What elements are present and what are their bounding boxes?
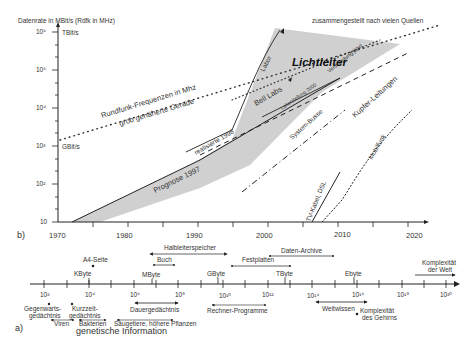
x-tick-2000: 2000 bbox=[256, 231, 273, 240]
scale-tick-1e4: 10⁴ bbox=[85, 291, 95, 298]
scale-a: 10² 10⁴ 10⁶ 10⁸ 10¹⁰ 10¹² 10¹⁴ 10¹⁶ 10¹⁸… bbox=[15, 244, 460, 336]
chart-b: 10 10² 10³ 10⁴ 10⁵ 10⁶ TBit/s GBit/s Dat… bbox=[17, 17, 440, 240]
gbit-label: GBit/s bbox=[62, 143, 80, 150]
y-tick-1e2: 10² bbox=[36, 180, 46, 187]
gegen-label-2: gedächtnis bbox=[29, 312, 61, 320]
tbyte-label: TByte bbox=[276, 270, 293, 278]
mbyte-label: MByte bbox=[142, 271, 161, 279]
a4-label: A4-Seite bbox=[83, 256, 108, 263]
ebyte-label: Ebyte bbox=[345, 270, 362, 278]
source-note: zusammengestellt nach vielen Quellen bbox=[312, 17, 424, 25]
scale-tick-1e12: 10¹² bbox=[262, 291, 274, 298]
mobilfunk-label: Mobilfunk bbox=[367, 132, 387, 160]
welt-label-2: der Welt bbox=[428, 266, 452, 273]
y-tick-1e6: 10⁶ bbox=[36, 28, 46, 35]
x-tick-2010: 2010 bbox=[334, 230, 351, 239]
a4-point bbox=[92, 265, 95, 268]
y-axis-label: Datenrate in MBit/s (Rdfk in MHz) bbox=[18, 17, 115, 25]
scale-tick-1e16: 10¹⁶ bbox=[352, 291, 364, 298]
scale-tick-1e8: 10⁸ bbox=[175, 291, 185, 298]
rechner-label: Rechner-Programme bbox=[207, 307, 268, 315]
x-tick-1970: 1970 bbox=[49, 231, 66, 240]
archive-label: Daten-Archive bbox=[281, 247, 323, 254]
tbit-label: TBit/s bbox=[62, 29, 79, 36]
genetisch-label: genetische Information bbox=[76, 326, 167, 336]
scale-tick-1e6: 10⁶ bbox=[130, 291, 140, 298]
panel-a-label: a) bbox=[15, 323, 23, 333]
y-tick-1e4: 10⁴ bbox=[36, 104, 46, 111]
y-tick-1e3: 10³ bbox=[36, 142, 46, 149]
panel-b-label: b) bbox=[17, 230, 25, 240]
kbyte-label: KByte bbox=[74, 270, 92, 278]
x-tick-1990: 1990 bbox=[186, 231, 203, 240]
kupfer-label: Kupfer-Leitungen bbox=[350, 74, 399, 119]
scale-tick-1e14: 10¹⁴ bbox=[307, 292, 319, 299]
scale-tick-1e2: 10² bbox=[40, 291, 50, 298]
mobilfunk-line bbox=[322, 110, 412, 222]
scale-tick-1e20: 10²⁰ bbox=[440, 291, 452, 298]
buch-label: Buch bbox=[157, 256, 172, 263]
y-tick-10: 10 bbox=[40, 218, 48, 225]
x-tick-2020: 2020 bbox=[406, 231, 423, 240]
gehirn-label-2: des Gehirns bbox=[362, 314, 398, 321]
dauer-label: Dauergedächtnis bbox=[130, 306, 180, 314]
y-tick-1e5: 10⁵ bbox=[36, 66, 46, 73]
scale-tick-1e10: 10¹⁰ bbox=[219, 292, 231, 299]
lichtleiter-label: Lichtleiter bbox=[292, 56, 347, 68]
scale-tick-1e18: 10¹⁸ bbox=[397, 291, 409, 298]
gbyte-label: GByte bbox=[207, 270, 225, 278]
kurz-label-1: Kurzzeit- bbox=[72, 305, 98, 312]
weltwissen-label: Weltwissen bbox=[322, 305, 355, 312]
viren-label: Viren bbox=[54, 320, 69, 327]
festplatten-label: Festplatten bbox=[242, 256, 275, 264]
kurz-label-2: gedächtnis bbox=[69, 312, 101, 320]
x-tick-1980: 1980 bbox=[116, 231, 133, 240]
halbleiter-label: Halbleiterspeicher bbox=[164, 244, 217, 252]
figure: 10 10² 10³ 10⁴ 10⁵ 10⁶ TBit/s GBit/s Dat… bbox=[0, 0, 476, 351]
